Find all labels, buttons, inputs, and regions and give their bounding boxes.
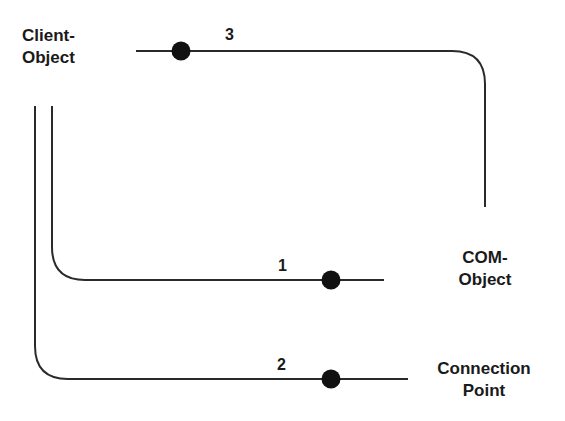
connection-1-dot (322, 271, 341, 290)
connection-3-line (136, 51, 485, 207)
node-com-object-line2: Object (440, 269, 530, 291)
connection-2-dot (322, 370, 341, 389)
node-com-object: COM- Object (440, 247, 530, 291)
connection-1 (52, 106, 384, 290)
node-connection-point-line2: Point (420, 380, 548, 402)
connection-2 (35, 106, 408, 389)
connection-1-line (52, 106, 384, 280)
connection-3 (136, 42, 485, 208)
node-connection-point-line1: Connection (420, 358, 548, 380)
node-client-object-line2: Object (22, 47, 75, 69)
node-connection-point: Connection Point (420, 358, 548, 402)
connection-2-line (35, 106, 408, 379)
connection-3-dot (172, 42, 191, 61)
node-client-object-line1: Client- (22, 25, 75, 47)
connection-3-label: 3 (225, 26, 234, 44)
connection-1-label: 1 (278, 257, 287, 275)
connection-2-label: 2 (277, 356, 286, 374)
node-com-object-line1: COM- (440, 247, 530, 269)
node-client-object: Client- Object (22, 25, 75, 69)
